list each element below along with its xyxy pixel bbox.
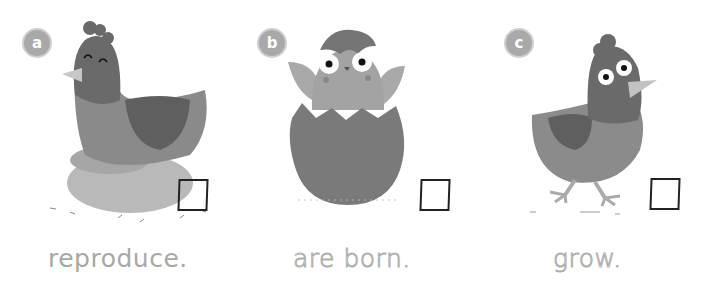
panel-a: a reproduce. [0,0,240,293]
answer-checkbox-a[interactable] [177,179,208,211]
panel-b: b are born. [240,0,480,293]
answer-checkbox-c[interactable] [649,178,680,210]
caption-c: grow. [553,244,622,273]
panel-c: c grow. [480,0,708,293]
answer-checkbox-b[interactable] [419,179,450,211]
caption-a: reproduce. [48,244,188,273]
caption-b: are born. [293,244,411,273]
